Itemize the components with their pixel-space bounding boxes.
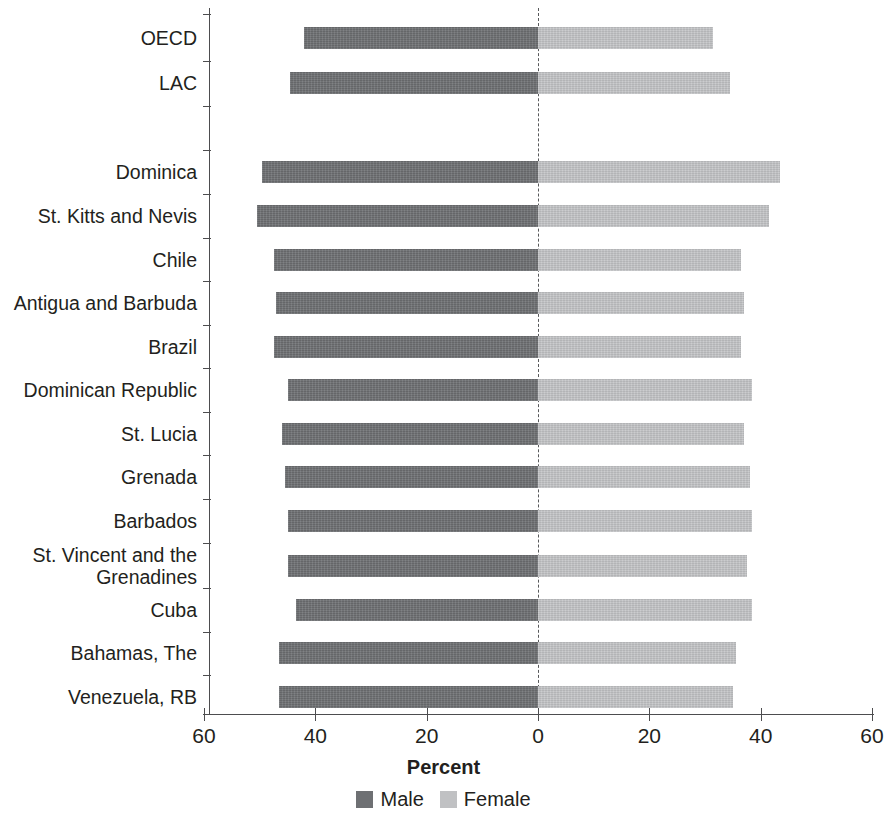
bar-female <box>538 466 750 488</box>
category-tick <box>203 325 211 326</box>
value-tick-label: 40 <box>749 724 772 748</box>
category-label: Dominican Republic <box>0 379 197 401</box>
bar-female <box>538 642 736 664</box>
category-label: St. Lucia <box>0 423 197 445</box>
category-label: Barbados <box>0 510 197 532</box>
value-tick <box>872 708 873 721</box>
category-label: St. Kitts and Nevis <box>0 205 197 227</box>
legend-item-female[interactable]: Female <box>440 788 531 811</box>
value-tick <box>649 708 650 721</box>
category-tick <box>203 61 211 62</box>
bar-male <box>304 27 538 49</box>
bar-female <box>538 423 744 445</box>
category-tick <box>203 588 211 589</box>
category-label: Bahamas, The <box>0 642 197 664</box>
bar-female <box>538 510 752 532</box>
bar-female <box>538 249 741 271</box>
bar-male <box>274 336 538 358</box>
category-label: Brazil <box>0 336 197 358</box>
bar-female <box>538 205 769 227</box>
value-tick-label: 60 <box>192 724 215 748</box>
category-tick <box>203 150 211 151</box>
bar-male <box>257 205 538 227</box>
bar-male <box>296 599 538 621</box>
category-tick <box>203 281 211 282</box>
legend-item-male[interactable]: Male <box>356 788 423 811</box>
category-tick <box>203 632 211 633</box>
bar-female <box>538 379 752 401</box>
category-label: Venezuela, RB <box>0 686 197 708</box>
bar-male <box>288 555 539 577</box>
bar-male <box>282 423 538 445</box>
category-tick <box>203 368 211 369</box>
bar-female <box>538 686 733 708</box>
chart-legend: Male Female <box>0 788 887 811</box>
bar-male <box>262 161 538 183</box>
bar-male <box>279 642 538 664</box>
category-tick <box>203 194 211 195</box>
bar-female <box>538 292 744 314</box>
value-tick-label: 0 <box>532 724 544 748</box>
value-tick-label: 60 <box>860 724 883 748</box>
bar-male <box>276 292 538 314</box>
value-tick-label: 40 <box>304 724 327 748</box>
value-tick <box>761 708 762 721</box>
category-tick <box>203 238 211 239</box>
x-axis-title: Percent <box>0 756 887 779</box>
category-tick <box>203 455 211 456</box>
bar-female <box>538 599 752 621</box>
square-swatch-icon <box>440 791 457 808</box>
category-tick <box>203 675 211 676</box>
category-label: Grenada <box>0 466 197 488</box>
bar-male <box>288 510 539 532</box>
bar-male <box>279 686 538 708</box>
category-tick <box>203 14 211 15</box>
bar-female <box>538 336 741 358</box>
value-axis-line <box>209 714 874 715</box>
category-label: Antigua and Barbuda <box>0 292 197 314</box>
category-tick <box>203 106 211 107</box>
bar-male <box>288 379 539 401</box>
value-tick-label: 20 <box>638 724 661 748</box>
category-tick <box>203 499 211 500</box>
legend-label-male: Male <box>380 788 423 811</box>
diverging-bar-chart: OECDLACDominicaSt. Kitts and NevisChileA… <box>0 0 887 821</box>
category-label: Cuba <box>0 599 197 621</box>
bar-male <box>274 249 538 271</box>
value-tick <box>538 708 539 721</box>
category-axis-spine <box>209 8 210 715</box>
category-label: OECD <box>0 27 197 49</box>
category-label: St. Vincent and the Grenadines <box>0 544 197 588</box>
bar-male <box>290 72 538 94</box>
bar-female <box>538 555 747 577</box>
square-swatch-icon <box>356 791 373 808</box>
value-tick <box>204 708 205 721</box>
category-tick <box>203 412 211 413</box>
value-tick-label: 20 <box>415 724 438 748</box>
bar-female <box>538 161 780 183</box>
value-tick <box>427 708 428 721</box>
legend-label-female: Female <box>464 788 531 811</box>
value-tick <box>315 708 316 721</box>
bar-female <box>538 27 713 49</box>
bar-female <box>538 72 730 94</box>
category-label: LAC <box>0 72 197 94</box>
category-tick <box>203 543 211 544</box>
bar-male <box>285 466 538 488</box>
category-label: Chile <box>0 249 197 271</box>
category-label: Dominica <box>0 161 197 183</box>
